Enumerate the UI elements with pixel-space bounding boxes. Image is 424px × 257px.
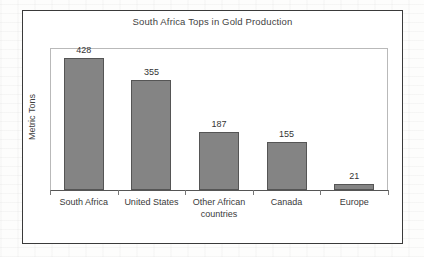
x-axis-tick-label-line: countries <box>185 209 253 221</box>
x-axis-tick <box>185 190 186 195</box>
x-axis-tick <box>320 190 321 195</box>
bar-group: 187 <box>185 48 253 190</box>
bar-value-label: 187 <box>211 119 226 129</box>
bar[interactable] <box>64 58 104 190</box>
x-axis-tick-label: Europe <box>320 197 388 209</box>
x-axis-category-labels: South AfricaUnited StatesOther Africanco… <box>50 197 388 231</box>
x-axis-tick <box>253 190 254 195</box>
x-axis-tick-label: Other Africancountries <box>185 197 253 220</box>
bar[interactable] <box>334 184 374 190</box>
x-axis-tick-label: Canada <box>253 197 321 209</box>
x-axis-tick-label-line: Europe <box>340 197 369 207</box>
bar-value-label: 355 <box>144 67 159 77</box>
x-axis-tick-label-line: Canada <box>271 197 303 207</box>
bar-group: 428 <box>50 48 118 190</box>
x-axis-tick-label-line: Other African <box>193 197 246 207</box>
bar-value-label: 155 <box>279 129 294 139</box>
x-axis-tick <box>388 190 389 195</box>
bar[interactable] <box>267 142 307 190</box>
bar-series: 42835518715521 <box>50 48 388 190</box>
bar-group: 355 <box>118 48 186 190</box>
bar-group: 21 <box>320 48 388 190</box>
y-axis-label-text: Metric Tons <box>27 94 37 140</box>
x-axis-tick <box>50 190 51 195</box>
x-axis-tick-label-line: United States <box>124 197 178 207</box>
chart-title: South Africa Tops in Gold Production <box>22 16 403 27</box>
bar[interactable] <box>131 80 171 190</box>
bar-group: 155 <box>253 48 321 190</box>
x-axis-tick-label-line: South Africa <box>60 197 109 207</box>
x-axis-tick-label: United States <box>118 197 186 209</box>
y-axis-label: Metric Tons <box>24 72 40 162</box>
bar[interactable] <box>199 132 239 190</box>
x-axis-tick-label: South Africa <box>50 197 118 209</box>
bar-value-label: 428 <box>76 45 91 55</box>
bar-value-label: 21 <box>349 171 359 181</box>
x-axis-tick <box>118 190 119 195</box>
x-axis-line <box>50 190 389 191</box>
